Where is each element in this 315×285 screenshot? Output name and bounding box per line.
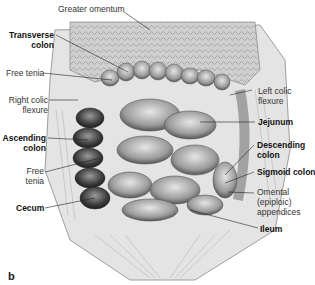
label-free-tenia-top: Free tenia: [6, 68, 44, 78]
label-descending-colon-line1: Descending: [257, 140, 305, 150]
label-omental-appendices-line1: Omental: [257, 187, 300, 197]
label-ileum: Ileum: [260, 224, 282, 234]
label-transverse-colon: Transverse colon: [6, 30, 54, 50]
label-omental-appendices-line3: appendices: [257, 207, 300, 217]
label-cecum: Cecum: [16, 203, 44, 213]
label-jejunum: Jejunum: [258, 117, 293, 127]
label-ascending-colon-line1: Ascending: [2, 133, 46, 143]
label-transverse-colon-line1: Transverse: [6, 30, 54, 40]
label-greater-omentum: Greater omentum: [58, 4, 125, 14]
label-descending-colon: Descending colon: [257, 140, 305, 160]
label-omental-appendices-line2: (epiploic): [257, 197, 300, 207]
label-descending-colon-line2: colon: [257, 150, 305, 160]
label-free-tenia-mid: Free tenia: [10, 166, 44, 186]
label-left-colic-flexure: Left colic flexure: [258, 86, 292, 106]
anatomical-figure: Greater omentum Transverse colon Free te…: [0, 0, 315, 285]
label-free-tenia-mid-line1: Free: [10, 166, 44, 176]
label-free-tenia-mid-line2: tenia: [10, 176, 44, 186]
label-ascending-colon-line2: colon: [2, 143, 46, 153]
label-sigmoid-colon: Sigmoid colon: [257, 167, 315, 177]
label-right-colic-flexure-line1: Right colic: [6, 95, 48, 105]
label-right-colic-flexure-line2: flexure: [6, 105, 48, 115]
panel-letter: b: [8, 270, 15, 282]
label-left-colic-flexure-line2: flexure: [258, 96, 292, 106]
label-transverse-colon-line2: colon: [6, 40, 54, 50]
label-left-colic-flexure-line1: Left colic: [258, 86, 292, 96]
label-ascending-colon: Ascending colon: [2, 133, 46, 153]
label-omental-appendices: Omental (epiploic) appendices: [257, 187, 300, 217]
label-right-colic-flexure: Right colic flexure: [6, 95, 48, 115]
